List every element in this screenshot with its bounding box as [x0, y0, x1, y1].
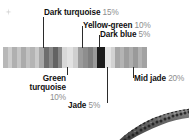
- callout-yellow-green: Yellow-green 10%: [83, 21, 151, 30]
- callout-dark-turquoise-name: Dark turquoise: [44, 8, 100, 17]
- callout-yellow-green-percent: 10%: [132, 21, 150, 30]
- bead-strand-photo-icon: [115, 106, 189, 140]
- callout-green-turquoise-percent: 10%: [50, 93, 66, 102]
- leader-line-dark-turquoise: [43, 17, 44, 48]
- callout-green-turquoise: Green turquoise 10%: [20, 74, 66, 102]
- callout-yellow-green-name: Yellow-green: [83, 21, 132, 30]
- leader-line-green-turquoise: [67, 67, 68, 75]
- callout-jade-name: Jade: [68, 101, 86, 110]
- bar-stripe: [142, 47, 147, 68]
- colour-composition-bar: [3, 47, 145, 68]
- callout-dark-turquoise-percent: 15%: [100, 8, 118, 17]
- colour-composition-figure: Dark turquoise 15% Yellow-green 10% Dark…: [0, 0, 189, 140]
- callout-dark-blue: Dark blue 5%: [100, 30, 150, 39]
- bar-stripe: [97, 47, 105, 68]
- callout-jade: Jade 5%: [68, 101, 100, 110]
- callout-mid-jade-percent: 20%: [166, 74, 184, 83]
- speck-icon: [5, 2, 12, 10]
- callout-dark-blue-percent: 5%: [136, 30, 150, 39]
- callout-mid-jade-name: Mid jade: [134, 74, 166, 83]
- leader-line-jade: [107, 67, 108, 103]
- callout-jade-percent: 5%: [86, 101, 100, 110]
- callout-dark-turquoise: Dark turquoise 15%: [44, 8, 119, 17]
- callout-dark-blue-name: Dark blue: [100, 30, 136, 39]
- callout-mid-jade: Mid jade 20%: [134, 74, 184, 83]
- callout-green-turquoise-name: Green turquoise: [30, 74, 66, 92]
